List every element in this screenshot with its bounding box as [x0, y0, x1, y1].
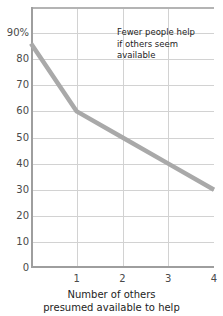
y-axis-tick-label: 90%: [0, 28, 29, 38]
x-axis-title-line: Number of others: [0, 288, 223, 301]
y-axis-tick-label: 10: [0, 237, 29, 247]
series-polyline: [31, 44, 214, 190]
chart-annotation: Fewer people helpif others seemavailable: [117, 27, 195, 62]
y-axis-tick-label: 50: [0, 133, 29, 143]
y-axis-tick-labels: 0102030405060708090%: [0, 0, 29, 316]
annotation-line: available: [117, 50, 195, 62]
y-axis-tick-label: 80: [0, 54, 29, 64]
x-axis-title-line: presumed available to help: [0, 301, 223, 314]
annotation-line: Fewer people help: [117, 27, 195, 39]
y-axis-tick-label: 60: [0, 106, 29, 116]
y-axis-tick-label: 0: [0, 263, 29, 273]
x-axis-tick-label: 1: [67, 274, 87, 284]
y-axis-tick-label: 70: [0, 80, 29, 90]
y-axis-tick-label: 40: [0, 159, 29, 169]
chart-figure: 0102030405060708090% 1234 Fewer people h…: [0, 0, 223, 316]
x-axis-tick-label: 3: [158, 274, 178, 284]
y-axis-tick-label: 20: [0, 211, 29, 221]
x-axis-tick-label: 4: [204, 274, 223, 284]
annotation-line: if others seem: [117, 39, 195, 51]
x-axis-title: Number of otherspresumed available to he…: [0, 288, 223, 314]
x-axis-tick-label: 2: [113, 274, 133, 284]
y-axis-tick-label: 30: [0, 185, 29, 195]
